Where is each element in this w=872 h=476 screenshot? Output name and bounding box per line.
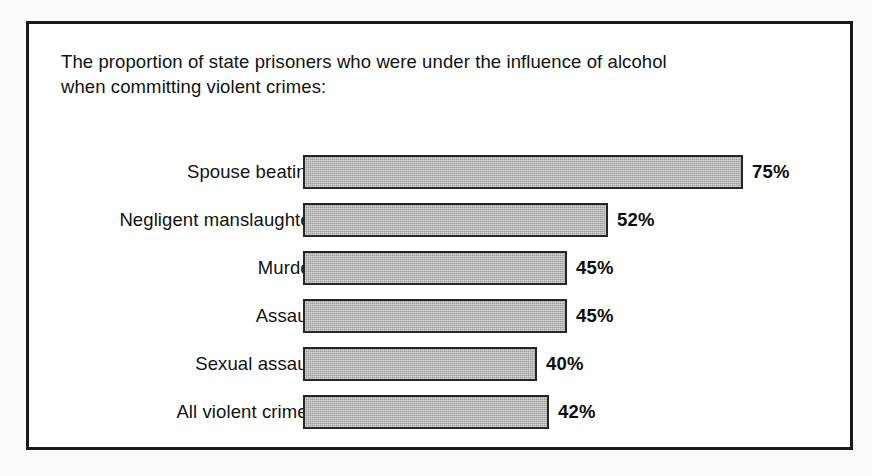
bar-category-label: Sexual assault — [57, 353, 317, 375]
bar-value-label: 45% — [576, 299, 614, 333]
bar-track: 75% — [303, 155, 743, 189]
bar-track: 42% — [303, 395, 549, 429]
bar — [303, 347, 537, 381]
bar-row: Spouse beating75% — [29, 155, 850, 189]
bar-value-label: 45% — [576, 251, 614, 285]
page-background: The proportion of state prisoners who we… — [0, 0, 872, 476]
bar — [303, 155, 743, 189]
bar-row: Assault45% — [29, 299, 850, 333]
bar-value-label: 40% — [546, 347, 584, 381]
bar-value-label: 52% — [617, 203, 655, 237]
bar — [303, 203, 608, 237]
bar-category-label: Negligent manslaughter — [57, 209, 317, 231]
bar-track: 40% — [303, 347, 537, 381]
bar — [303, 395, 549, 429]
bar-row: Negligent manslaughter52% — [29, 203, 850, 237]
bar — [303, 299, 567, 333]
bar-row: All violent crimes42% — [29, 395, 850, 429]
bar-row: Murder45% — [29, 251, 850, 285]
chart-title: The proportion of state prisoners who we… — [61, 49, 801, 99]
bar-category-label: All violent crimes — [57, 401, 317, 423]
bar-value-label: 42% — [558, 395, 596, 429]
bar-track: 45% — [303, 251, 567, 285]
bar-track: 52% — [303, 203, 608, 237]
bar-category-label: Murder — [57, 257, 317, 279]
figure-frame: The proportion of state prisoners who we… — [26, 21, 853, 450]
bar-chart-plot: Spouse beating75%Negligent manslaughter5… — [29, 124, 850, 444]
bar-track: 45% — [303, 299, 567, 333]
bar-value-label: 75% — [752, 155, 790, 189]
bar — [303, 251, 567, 285]
bar-category-label: Spouse beating — [57, 161, 317, 183]
bar-category-label: Assault — [57, 305, 317, 327]
bar-row: Sexual assault40% — [29, 347, 850, 381]
